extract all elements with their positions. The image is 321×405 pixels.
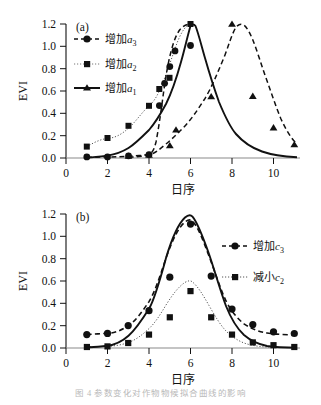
xtick-label-a-2: 4 bbox=[146, 167, 152, 179]
legend-label-c2: 减小c2 bbox=[253, 271, 284, 286]
legend-item-a3[interactable]: 增加a3 bbox=[74, 32, 137, 48]
series-markers-a1 bbox=[125, 21, 299, 159]
legend-item-c3[interactable]: 增加c3 bbox=[222, 239, 284, 255]
legend-label-c3: 增加c3 bbox=[253, 239, 284, 255]
ytick-label-a-2: 0.4 bbox=[42, 107, 57, 119]
ytick-label-b-2: 0.4 bbox=[42, 297, 57, 309]
xtick-label-b-4: 8 bbox=[229, 357, 235, 369]
axis-b bbox=[60, 214, 300, 354]
legend-item-c2[interactable]: 减小c2 bbox=[222, 271, 284, 286]
xtick-label-b-1: 2 bbox=[105, 357, 111, 369]
series-markers-c2 bbox=[84, 288, 298, 350]
xtick-label-b-5: 10 bbox=[268, 357, 280, 369]
xtick-label-b-3: 6 bbox=[188, 357, 194, 369]
panel-label-b: (b) bbox=[76, 211, 90, 224]
yaxis-title-b: EVI bbox=[16, 271, 30, 291]
ytick-label-a-5: 1.0 bbox=[42, 40, 57, 52]
xtick-label-a-4: 8 bbox=[229, 167, 235, 179]
figure-container: 1.2 1.0 0.8 0.6 0.4 0.2 0.0 0 2 4 6 8 10… bbox=[0, 0, 321, 405]
series-line-a3 bbox=[87, 24, 191, 157]
legend-marker-circle-icon bbox=[231, 242, 238, 249]
legend-marker-square-icon bbox=[232, 274, 238, 280]
xtick-label-a-5: 10 bbox=[268, 167, 280, 179]
xaxis-title-a: 日序 bbox=[171, 182, 195, 197]
legend-b: 增加c3 减小c2 bbox=[222, 239, 284, 286]
yaxis-title-a: EVI bbox=[16, 81, 30, 101]
series-markers-a3 bbox=[83, 42, 194, 160]
ytick-label-b-6: 1.2 bbox=[42, 208, 57, 220]
ytick-label-b-3: 0.6 bbox=[42, 275, 57, 287]
chart-panel-a: 1.2 1.0 0.8 0.6 0.4 0.2 0.0 0 2 4 6 8 10… bbox=[0, 0, 321, 198]
series-line-a1 bbox=[129, 24, 297, 157]
xtick-label-b-2: 4 bbox=[146, 357, 152, 369]
ytick-label-b-5: 1.0 bbox=[42, 230, 57, 242]
legend-label-a3: 增加a3 bbox=[105, 32, 137, 48]
legend-label-a1: 增加a1 bbox=[105, 81, 137, 97]
ytick-label-b-4: 0.8 bbox=[42, 253, 57, 265]
ytick-label-a-4: 0.8 bbox=[42, 63, 57, 75]
xaxis-title-b: 日序 bbox=[171, 372, 195, 386]
ytick-label-a-3: 0.6 bbox=[42, 85, 57, 97]
legend-item-a1[interactable]: 增加a1 bbox=[74, 81, 137, 97]
xtick-label-a-3: 6 bbox=[188, 167, 194, 179]
legend-marker-circle-icon bbox=[83, 35, 90, 42]
chart-panel-b: 1.2 1.0 0.8 0.6 0.4 0.2 0.0 0 2 4 6 8 10… bbox=[0, 196, 321, 386]
axis-a bbox=[60, 24, 300, 164]
ytick-label-b-0: 0.0 bbox=[42, 342, 57, 354]
legend-label-a2: 增加a2 bbox=[105, 57, 137, 73]
xtick-label-a-1: 2 bbox=[105, 167, 111, 179]
xtick-label-a-0: 0 bbox=[63, 167, 69, 179]
ytick-label-a-6: 1.2 bbox=[42, 18, 57, 30]
xtick-label-b-0: 0 bbox=[63, 357, 69, 369]
legend-item-a2[interactable]: 增加a2 bbox=[74, 57, 137, 73]
legend-marker-square-icon bbox=[84, 61, 90, 67]
ytick-label-a-0: 0.0 bbox=[42, 152, 57, 164]
panel-label-a: (a) bbox=[76, 21, 89, 34]
ytick-label-a-1: 0.2 bbox=[42, 130, 57, 142]
ytick-label-b-1: 0.2 bbox=[42, 320, 57, 332]
figure-caption: 图 4 参数变化对作物物候拟合曲线的影响 bbox=[0, 386, 321, 398]
legend-a: 增加a3 增加a2 增加a1 bbox=[74, 32, 137, 97]
